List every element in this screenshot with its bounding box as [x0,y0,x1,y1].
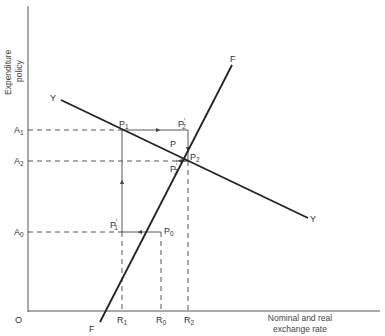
x-axis-title-line2: exchange rate [273,324,327,334]
point-p2: P2 [190,152,200,163]
point-p2-prime: P′2 [178,117,186,130]
point-p0: P0 [164,226,174,237]
ff-start-label: F [89,324,95,334]
tick-r0: R0 [156,315,167,326]
point-p: P [170,139,176,149]
tick-a1: A1 [14,125,24,136]
point-p3-prime: P′3 [170,162,178,175]
tick-a0: A0 [14,227,24,238]
ff-curve [100,65,232,322]
tick-r1: R1 [117,315,128,326]
policy-assignment-diagram: Expenditure policy O Nominal and real ex… [0,0,385,336]
yy-end-label: Y [310,214,316,224]
ff-end-label: F [230,54,236,64]
origin-label: O [15,315,22,325]
tick-r2: R2 [184,315,195,326]
tick-a2: A2 [14,156,24,167]
y-axis-title-line2: policy [14,60,24,82]
yy-start-label: Y [50,93,56,103]
point-p1: P1 [119,119,129,130]
y-axis-title-line1: Expenditure [3,49,13,95]
x-axis-title-line1: Nominal and real [268,313,332,323]
point-p1-prime: P′1 [110,218,118,231]
